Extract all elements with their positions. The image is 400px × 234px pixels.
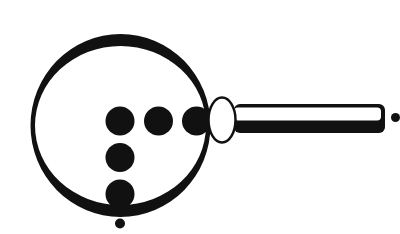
handle-collar xyxy=(209,98,236,143)
dot xyxy=(106,180,135,209)
dot xyxy=(144,107,173,136)
dot-pattern xyxy=(106,107,212,209)
magnifying-glass-icon xyxy=(0,0,400,234)
dot xyxy=(106,143,135,172)
small-dot xyxy=(115,219,125,229)
handle xyxy=(234,104,385,133)
dot xyxy=(106,107,135,136)
handle-highlight xyxy=(234,108,381,121)
small-dot xyxy=(391,113,400,122)
magnifier-illustration: magnifying glass with dots xyxy=(0,0,400,234)
